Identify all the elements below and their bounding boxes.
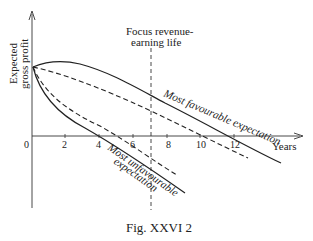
tick-label-4: 4 <box>96 139 101 150</box>
most-favourable-label: Most favourable expectation <box>161 86 283 147</box>
tick-label-6: 6 <box>130 139 135 150</box>
chart: 0 2 4 6 8 10 12 Years Expected gross pro… <box>0 0 313 241</box>
series-most-unfavourable <box>33 67 185 193</box>
figure-caption: Fig. XXVI 2 <box>126 220 192 235</box>
y-axis-label-line2: gross profit <box>18 39 30 89</box>
tick-label-0: 0 <box>24 139 29 150</box>
tick-label-8: 8 <box>166 139 171 150</box>
tick-label-2: 2 <box>62 139 67 150</box>
series-most-favourable <box>33 62 281 163</box>
series-intermediate-lower <box>33 67 177 175</box>
tick-label-10: 10 <box>196 139 206 150</box>
tick-label-12: 12 <box>230 139 240 150</box>
focus-label-line2: earning life <box>131 36 182 48</box>
